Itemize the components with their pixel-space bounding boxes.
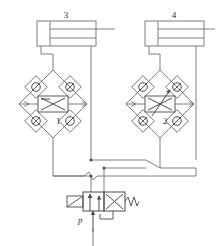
bridge-2-label: 2 xyxy=(163,116,168,126)
check-valve-bridge-2 xyxy=(126,70,196,168)
junction-dot xyxy=(90,175,93,178)
cylinder-4-label: 4 xyxy=(172,10,177,20)
cylinder-3-label: 3 xyxy=(64,10,69,20)
spring-return-icon xyxy=(125,197,139,206)
hydraulic-schematic-diagram: 3 4 xyxy=(0,0,224,246)
junction-dot xyxy=(103,167,106,170)
pressure-port-label: p xyxy=(77,215,83,225)
pipe-network xyxy=(53,159,196,193)
lever-actuator-icon xyxy=(67,196,83,207)
junction-dot xyxy=(90,159,93,162)
check-valve-bridge-1 xyxy=(19,70,91,176)
hydraulic-cylinder-3 xyxy=(37,21,115,160)
adjustable-throttle-valve xyxy=(145,90,175,116)
throttle-valve xyxy=(38,96,68,112)
bridge-1-label: 1 xyxy=(56,116,61,126)
schematic-canvas: 3 4 xyxy=(0,0,224,246)
